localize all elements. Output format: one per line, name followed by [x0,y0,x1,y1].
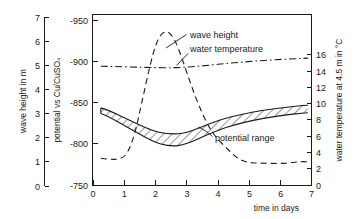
temperature-tick-label-2: 2 [316,164,321,174]
potential-tick-label-850: -850 [70,98,88,108]
wave-height-tick-label-2: 2 [35,133,40,143]
potential-range-annotation-label: potential range [215,133,275,143]
wave-height-tick-label-4: 4 [35,85,40,95]
potential-tick-label-950: -950 [70,16,88,26]
temperature-tick-label-10: 10 [316,99,326,109]
wave-height-tick-label-6: 6 [35,37,40,47]
wave-height-tick-label-1: 1 [35,157,40,167]
wave-height-tick-label-0: 0 [35,182,40,192]
wave-height-annotation-label: wave height [189,30,239,40]
x-tick-label-1: 1 [122,189,127,199]
potential-tick-label-750: -750 [70,181,88,191]
x-axis-title: time in days [254,203,299,213]
temperature-tick-label-8: 8 [316,115,321,125]
x-tick-label-5: 5 [247,189,252,199]
wave-height-axis-title: wave height in m [18,69,28,134]
wave-height-tick-label-3: 3 [35,109,40,119]
x-tick-label-6: 6 [278,189,283,199]
chart-figure: 7 6 5 4 3 2 1 0 wave height in m -950 -9… [0,0,356,219]
temperature-tick-label-14: 14 [316,67,326,77]
potential-tick-label-800: -800 [70,139,88,149]
temperature-tick-label-0: 0 [316,181,321,191]
water-temperature-axis-title: water temperature at 4.5 m in °C [334,39,344,163]
potential-tick-label-900: -900 [70,57,88,67]
wave-height-tick-label-7: 7 [35,13,40,23]
x-tick-label-3: 3 [184,189,189,199]
x-tick-label-2: 2 [153,189,158,199]
water-temperature-annotation-label: water temperature [189,44,263,54]
x-tick-label-7: 7 [309,189,314,199]
x-tick-label-0: 0 [90,189,95,199]
potential-axis-title: potential vs Cu/CuSO₄ [52,57,62,143]
temperature-tick-label-16: 16 [316,50,326,60]
chart-svg: 7 6 5 4 3 2 1 0 wave height in m -950 -9… [0,0,356,219]
temperature-tick-label-6: 6 [316,132,321,142]
x-tick-label-4: 4 [216,189,221,199]
temperature-tick-label-12: 12 [316,83,326,93]
temperature-tick-label-4: 4 [316,148,321,158]
wave-height-tick-label-5: 5 [35,61,40,71]
